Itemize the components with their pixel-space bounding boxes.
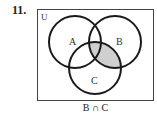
set-label-a: A — [69, 36, 77, 47]
caption: B ∩ C — [0, 102, 157, 113]
universe-label: U — [41, 12, 48, 22]
set-label-b: B — [116, 36, 123, 47]
set-label-c: C — [91, 75, 98, 86]
venn-diagram: U A B C — [0, 0, 157, 115]
